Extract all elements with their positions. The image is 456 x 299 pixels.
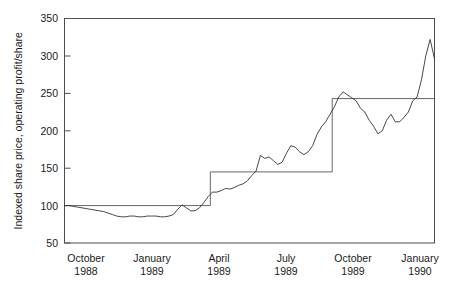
x-tick-month: January (401, 252, 439, 264)
x-tick-month: April (208, 252, 229, 264)
x-tick-year: 1989 (140, 265, 164, 277)
x-tick-month: October (334, 252, 372, 264)
y-tick-label: 150 (40, 162, 58, 174)
x-tick-month: October (67, 252, 105, 264)
y-tick-label: 100 (40, 200, 58, 212)
x-tick-year: 1988 (74, 265, 98, 277)
share-price-chart: 350 300 250 200 150 100 50 Indexed share… (0, 0, 456, 299)
x-tick-year: 1990 (408, 265, 432, 277)
chart-figure: 350 300 250 200 150 100 50 Indexed share… (0, 0, 456, 299)
y-tick-label: 200 (40, 125, 58, 137)
x-tick-year: 1989 (341, 265, 365, 277)
x-tick-year: 1989 (274, 265, 298, 277)
x-tick-year: 1989 (207, 265, 231, 277)
x-tick-month: July (277, 252, 296, 264)
x-tick-month: January (133, 252, 171, 264)
y-tick-label: 350 (40, 12, 58, 24)
y-tick-label: 250 (40, 87, 58, 99)
y-axis-title: Indexed share price, operating profit/sh… (12, 32, 24, 229)
y-tick-label: 50 (46, 237, 58, 249)
y-tick-label: 300 (40, 50, 58, 62)
